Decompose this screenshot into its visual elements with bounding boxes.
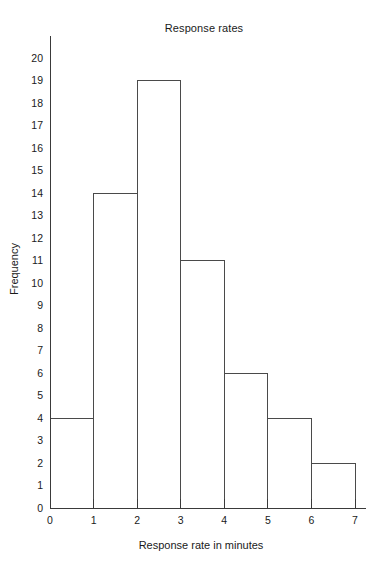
x-tick-label: 5	[265, 514, 271, 526]
y-tick-label: 14	[31, 187, 43, 199]
x-tick-label: 1	[91, 514, 97, 526]
y-tick-label: 10	[31, 277, 43, 289]
plot-area: 01234567891011121314151617181920 0123456…	[0, 0, 388, 570]
y-tick-label: 15	[31, 164, 43, 176]
histogram-bar	[137, 81, 181, 509]
y-tick-label: 4	[37, 412, 43, 424]
y-tick-label: 6	[37, 367, 43, 379]
y-tick-label: 17	[31, 119, 43, 131]
histogram-bar	[268, 418, 312, 508]
y-tick-label: 16	[31, 142, 43, 154]
y-tick-label: 20	[31, 52, 43, 64]
x-axis-ticks	[50, 499, 355, 508]
y-tick-label: 0	[37, 502, 43, 514]
x-tick-label: 2	[134, 514, 140, 526]
histogram-bar	[50, 418, 94, 508]
histogram-chart: Response rates 0123456789101112131415161…	[0, 0, 388, 570]
y-tick-label: 5	[37, 389, 43, 401]
y-tick-label: 13	[31, 209, 43, 221]
x-tick-label: 6	[309, 514, 315, 526]
x-tick-label: 7	[352, 514, 358, 526]
x-axis-tick-labels: 01234567	[47, 514, 358, 526]
y-tick-label: 18	[31, 97, 43, 109]
y-tick-label: 2	[37, 457, 43, 469]
x-tick-label: 0	[47, 514, 53, 526]
y-axis-tick-labels: 01234567891011121314151617181920	[31, 52, 43, 514]
bar-series	[50, 81, 355, 509]
histogram-bar	[181, 261, 225, 509]
y-tick-label: 19	[31, 74, 43, 86]
y-axis-title: Frequency	[8, 229, 20, 309]
x-axis-title: Response rate in minutes	[0, 539, 388, 551]
y-tick-label: 11	[32, 254, 43, 266]
y-tick-label: 7	[37, 344, 43, 356]
histogram-bar	[311, 463, 355, 508]
y-tick-label: 8	[37, 322, 43, 334]
y-tick-label: 9	[37, 299, 43, 311]
y-tick-label: 12	[31, 232, 43, 244]
x-tick-label: 4	[221, 514, 227, 526]
histogram-bar	[224, 373, 268, 508]
histogram-bar	[94, 193, 138, 508]
y-tick-label: 1	[37, 479, 43, 491]
y-tick-label: 3	[37, 434, 43, 446]
x-tick-label: 3	[178, 514, 184, 526]
